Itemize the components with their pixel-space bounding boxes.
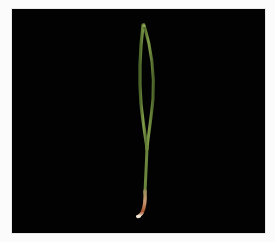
- left-leaf: [140, 25, 147, 149]
- root-tip: [136, 215, 141, 218]
- image-frame: Grass seedling photographed against a bl…: [0, 0, 275, 242]
- seedling-photo: Grass seedling photographed against a bl…: [12, 9, 265, 233]
- stem: [145, 147, 147, 193]
- root: [138, 191, 145, 217]
- seedling-illustration: [12, 9, 265, 233]
